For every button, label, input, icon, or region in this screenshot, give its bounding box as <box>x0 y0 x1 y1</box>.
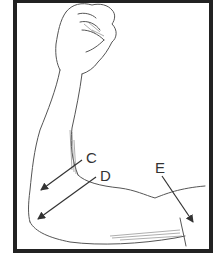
arrow-d <box>38 177 96 219</box>
label-d: D <box>100 168 111 183</box>
arrow-e <box>162 176 193 222</box>
arm-illustration <box>0 0 219 262</box>
arm-outline <box>29 4 206 246</box>
arrow-c <box>41 160 82 190</box>
label-e: E <box>155 160 165 175</box>
label-c: C <box>86 150 97 165</box>
arm-shading <box>70 22 182 240</box>
